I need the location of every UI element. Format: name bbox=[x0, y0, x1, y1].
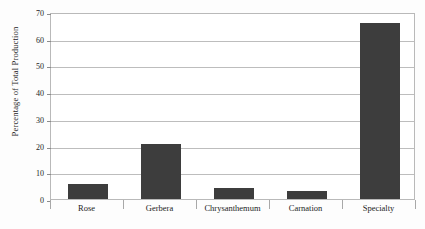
bar[interactable] bbox=[360, 23, 400, 199]
bar-slot bbox=[270, 14, 343, 199]
bar-slot bbox=[51, 14, 124, 199]
plot-area bbox=[50, 13, 415, 200]
bar-slot bbox=[343, 14, 416, 199]
y-axis-tick-labels: 010203040506070 bbox=[22, 13, 44, 200]
category-separator bbox=[415, 200, 416, 209]
bar-chart: Percentage of Total Production 010203040… bbox=[0, 0, 425, 229]
y-tick-label: 10 bbox=[36, 169, 44, 178]
x-axis-tick-labels: RoseGerberaChrysanthemumCarnationSpecial… bbox=[50, 203, 415, 223]
bar[interactable] bbox=[141, 144, 181, 199]
x-tick-label: Chrysanthemum bbox=[204, 203, 260, 213]
x-tick-label: Specialty bbox=[363, 203, 395, 213]
bar[interactable] bbox=[287, 191, 327, 199]
bar[interactable] bbox=[214, 188, 254, 199]
bar-slot bbox=[197, 14, 270, 199]
bar[interactable] bbox=[68, 184, 108, 199]
y-tick-label: 20 bbox=[36, 142, 44, 151]
y-tick-label: 70 bbox=[36, 9, 44, 18]
bars-layer bbox=[51, 14, 414, 199]
x-tick-label: Rose bbox=[78, 203, 95, 213]
y-tick-label: 60 bbox=[36, 35, 44, 44]
x-tick-label: Carnation bbox=[289, 203, 323, 213]
y-tick-label: 30 bbox=[36, 115, 44, 124]
y-tick-label: 40 bbox=[36, 89, 44, 98]
y-tick-label: 50 bbox=[36, 62, 44, 71]
x-tick-label: Gerbera bbox=[146, 203, 173, 213]
bar-slot bbox=[124, 14, 197, 199]
y-tick-label: 0 bbox=[40, 196, 44, 205]
